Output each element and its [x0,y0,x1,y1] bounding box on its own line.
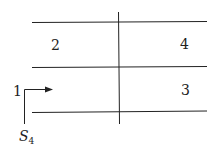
vertical-divider-line [119,12,120,124]
inlet-label-1: 1 [13,83,22,99]
flow-diagram: 2 4 3 1 S4 [0,0,218,152]
middle-horizontal-line [32,67,207,68]
region-label-2: 2 [51,37,60,53]
top-horizontal-line [32,22,207,23]
section-label: S4 [19,128,35,146]
section-arrow-icon [25,87,54,125]
region-label-4: 4 [180,36,189,52]
region-label-3: 3 [181,82,190,98]
